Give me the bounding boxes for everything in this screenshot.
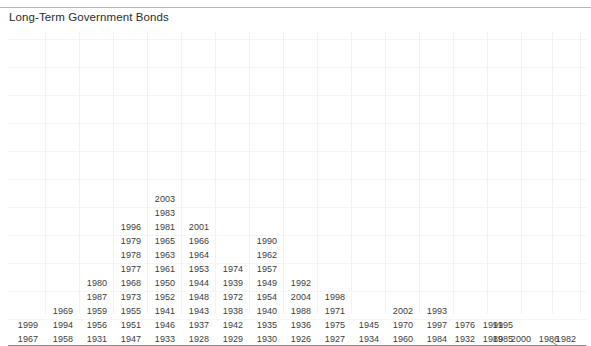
year-1934: 1934 (359, 334, 379, 344)
year-1997: 1997 (427, 320, 447, 330)
year-2003: 2003 (155, 194, 175, 204)
year-1937: 1937 (189, 320, 209, 330)
year-1976: 1976 (455, 320, 475, 330)
year-1985: 1985 (493, 334, 513, 344)
vertical-gridline (385, 31, 386, 314)
year-1984: 1984 (427, 334, 447, 344)
year-1987: 1987 (87, 292, 107, 302)
year-1974: 1974 (223, 264, 243, 274)
vertical-gridline (79, 31, 80, 314)
vertical-gridline (453, 31, 454, 314)
year-1940: 1940 (257, 306, 277, 316)
year-1971: 1971 (325, 306, 345, 316)
year-1935: 1935 (257, 320, 277, 330)
year-1965: 1965 (155, 236, 175, 246)
year-1980: 1980 (87, 278, 107, 288)
year-1948: 1948 (189, 292, 209, 302)
year-1949: 1949 (257, 278, 277, 288)
vertical-gridline (283, 31, 284, 314)
year-1933: 1933 (155, 334, 175, 344)
vertical-gridline (181, 31, 182, 314)
year-1988: 1988 (291, 306, 311, 316)
year-1962: 1962 (257, 250, 277, 260)
vertical-gridline (580, 31, 581, 314)
year-1966: 1966 (189, 236, 209, 246)
page-title: Long-Term Government Bonds (9, 11, 169, 23)
year-1967: 1967 (18, 334, 38, 344)
vertical-gridline (113, 31, 114, 314)
vertical-gridline (552, 31, 553, 314)
year-1936: 1936 (291, 320, 311, 330)
vertical-gridline (45, 31, 46, 314)
year-1956: 1956 (87, 320, 107, 330)
year-1944: 1944 (189, 278, 209, 288)
year-1950: 1950 (155, 278, 175, 288)
year-1964: 1964 (189, 250, 209, 260)
vertical-gridline (147, 31, 148, 314)
year-1957: 1957 (257, 264, 277, 274)
horizontal-gridline (8, 179, 587, 180)
year-1992: 1992 (291, 278, 311, 288)
year-1926: 1926 (291, 334, 311, 344)
year-1938: 1938 (223, 306, 243, 316)
year-1979: 1979 (121, 236, 141, 246)
horizontal-gridline (8, 95, 587, 96)
year-1996: 1996 (121, 222, 141, 232)
year-1927: 1927 (325, 334, 345, 344)
bond-returns-histogram: Long-Term Government Bonds 1967195819311… (0, 0, 591, 346)
vertical-gridline (521, 31, 522, 314)
plot-area: 1967195819311947193319281929193019261927… (0, 31, 591, 314)
year-1929: 1929 (223, 334, 243, 344)
year-1953: 1953 (189, 264, 209, 274)
year-1928: 1928 (189, 334, 209, 344)
vertical-gridline (487, 31, 488, 314)
vertical-gridline (419, 31, 420, 314)
year-1954: 1954 (257, 292, 277, 302)
year-1963: 1963 (155, 250, 175, 260)
horizontal-gridline (8, 67, 587, 68)
year-1942: 1942 (223, 320, 243, 330)
year-1993: 1993 (427, 306, 447, 316)
horizontal-gridline (8, 151, 587, 152)
year-2002: 2002 (393, 306, 413, 316)
year-2001: 2001 (189, 222, 209, 232)
year-1978: 1978 (121, 250, 141, 260)
year-1943: 1943 (189, 306, 209, 316)
year-1995: 1995 (493, 320, 513, 330)
year-1968: 1968 (121, 278, 141, 288)
vertical-gridline (351, 31, 352, 314)
year-1999: 1999 (18, 320, 38, 330)
vertical-gridline (317, 31, 318, 314)
year-1969: 1969 (53, 306, 73, 316)
year-1961: 1961 (155, 264, 175, 274)
year-1959: 1959 (87, 306, 107, 316)
year-1939: 1939 (223, 278, 243, 288)
year-1977: 1977 (121, 264, 141, 274)
year-1983: 1983 (155, 208, 175, 218)
year-1973: 1973 (121, 292, 141, 302)
year-1994: 1994 (53, 320, 73, 330)
year-1981: 1981 (155, 222, 175, 232)
year-1947: 1947 (121, 334, 141, 344)
year-1960: 1960 (393, 334, 413, 344)
year-1958: 1958 (53, 334, 73, 344)
year-1972: 1972 (223, 292, 243, 302)
year-1932: 1932 (455, 334, 475, 344)
year-1952: 1952 (155, 292, 175, 302)
year-1941: 1941 (155, 306, 175, 316)
vertical-gridline (215, 31, 216, 314)
horizontal-gridline (8, 263, 587, 264)
year-2000: 2000 (511, 334, 531, 344)
grid-layer (0, 31, 591, 314)
year-2004: 2004 (291, 292, 311, 302)
year-1955: 1955 (121, 306, 141, 316)
year-1946: 1946 (155, 320, 175, 330)
horizontal-gridline (8, 123, 587, 124)
axis-break-marker (545, 338, 559, 346)
year-1945: 1945 (359, 320, 379, 330)
year-1975: 1975 (325, 320, 345, 330)
year-1970: 1970 (393, 320, 413, 330)
year-1951: 1951 (121, 320, 141, 330)
horizontal-gridline (8, 207, 587, 208)
vertical-gridline (249, 31, 250, 314)
